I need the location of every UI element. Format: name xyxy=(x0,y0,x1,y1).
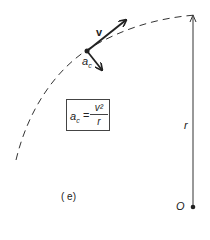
acceleration-label: ac xyxy=(82,56,92,69)
centripetal-formula-box: ac = v² r xyxy=(66,99,110,131)
velocity-vector xyxy=(87,20,126,51)
particle-point xyxy=(85,49,90,54)
formula-denominator: r xyxy=(90,115,108,127)
origin-label: O xyxy=(176,201,185,212)
panel-label: ( e) xyxy=(61,192,76,202)
formula-lhs: ac xyxy=(70,110,80,124)
radius-label: r xyxy=(184,120,188,131)
formula-equals: = xyxy=(83,109,89,121)
velocity-label: v xyxy=(96,27,102,38)
formula-fraction: v² r xyxy=(90,102,108,127)
origin-point xyxy=(191,205,196,210)
formula-numerator: v² xyxy=(90,102,108,115)
